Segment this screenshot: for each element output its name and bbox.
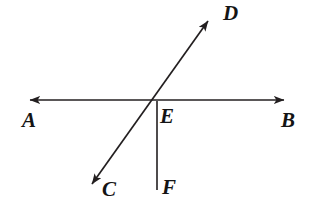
point-label-d: D (223, 3, 238, 24)
point-label-f: F (162, 177, 176, 198)
line-cd (92, 21, 208, 184)
point-label-e: E (160, 106, 174, 127)
geometry-diagram-canvas: A B C D E F (0, 0, 309, 203)
point-label-b: B (281, 110, 295, 131)
point-label-a: A (22, 110, 36, 131)
geometry-figure (0, 0, 309, 203)
point-label-c: C (102, 179, 116, 200)
